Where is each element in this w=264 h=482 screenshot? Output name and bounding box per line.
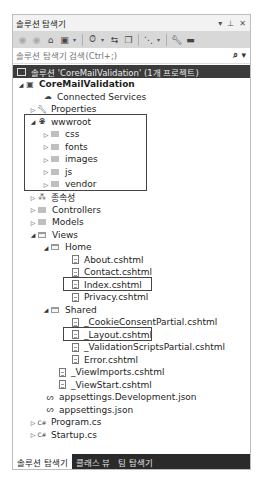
folder-icon (38, 219, 46, 225)
tree-item-program[interactable]: ▷ C# Program.cs (29, 416, 101, 429)
toolbar-separator (166, 34, 167, 46)
dependencies-icon: ⁂ (37, 193, 47, 202)
collapsed-arrow-icon[interactable]: ▷ (29, 219, 37, 226)
razor-file-icon (59, 380, 66, 389)
tree-item-views[interactable]: ◢ Views (29, 229, 78, 242)
razor-file-icon (72, 318, 79, 327)
solution-label: 솔루션 'CoreMailValidation' (1개 프로젝트) (31, 66, 199, 78)
wrench-icon: 🔧︎ (37, 105, 47, 114)
collapse-all-icon[interactable]: ❐ (123, 34, 134, 45)
collapsed-arrow-icon[interactable]: ▷ (29, 206, 37, 213)
tab-class-view[interactable]: 클래스 뷰 (72, 454, 115, 469)
folder-icon (51, 131, 59, 137)
home-icon[interactable]: ⌂ (45, 34, 56, 45)
razor-file-icon (72, 355, 79, 364)
collapsed-arrow-icon[interactable]: ▷ (29, 194, 37, 201)
tree-item-dependencies[interactable]: ▷ ⁂ 종속성 (29, 191, 75, 204)
collapsed-arrow-icon[interactable]: ▷ (29, 431, 37, 438)
expanded-arrow-icon[interactable]: ◢ (29, 231, 37, 238)
switch-views-dropdown-icon[interactable]: ▾ (73, 36, 78, 43)
tree-item-controllers[interactable]: ▷ Controllers (29, 204, 101, 217)
panel-title: 솔루션 탐색기 (16, 17, 65, 29)
tree-item-about[interactable]: About.cshtml (71, 254, 144, 267)
window-position-dropdown-icon[interactable]: ▾ (218, 19, 222, 28)
tree-item-contact[interactable]: Contact.cshtml (71, 266, 152, 279)
tree-item-home[interactable]: ◢ Home (42, 241, 92, 254)
collapsed-arrow-icon[interactable]: ▷ (42, 131, 50, 138)
open-folder-icon (51, 307, 59, 313)
globe-icon: 🌐︎ (37, 117, 47, 126)
folder-icon (51, 181, 59, 187)
search-bar: ⌕ ▾ (13, 48, 250, 64)
solution-icon (17, 68, 26, 76)
properties-icon[interactable]: 🔧︎ (171, 34, 182, 45)
razor-file-icon (72, 268, 79, 277)
cloud-icon: ☁ (43, 92, 53, 101)
tree-item-models[interactable]: ▷ Models (29, 216, 84, 229)
tree-item-error[interactable]: Error.cshtml (71, 354, 138, 367)
panel-titlebar: 솔루션 탐색기 ▾ ⊥ ✕ (13, 15, 250, 31)
tree-item-privacy[interactable]: Privacy.cshtml (71, 291, 148, 304)
razor-file-icon (72, 330, 79, 339)
tree-item-validation-scripts-partial[interactable]: _ValidationScriptsPartial.cshtml (71, 341, 225, 354)
switch-views-icon[interactable]: ▣ (59, 34, 70, 45)
tree-item-properties[interactable]: ▷ 🔧︎ Properties (29, 103, 96, 116)
json-file-icon: ᔕ (45, 393, 55, 402)
open-folder-icon (38, 232, 46, 238)
pending-changes-filter-icon[interactable]: ⏱ (87, 34, 98, 45)
tree-item-vendor[interactable]: ▷ vendor (42, 178, 97, 191)
pin-icon[interactable]: ⊥ (227, 19, 234, 28)
toolbar: ◉ ◉ ⌂ ▣ ▾ ⏱ ▾ ⇆ ❐ ⋱ ▾ 🔧︎ ▬ (13, 31, 250, 48)
folder-icon (51, 156, 59, 162)
search-input[interactable] (16, 51, 206, 61)
tree-item-wwwroot[interactable]: ◢ 🌐︎ wwwroot (29, 116, 91, 129)
toolbar-separator (138, 34, 139, 46)
json-file-icon: ᔕ (45, 405, 55, 414)
tree-item-shared[interactable]: ◢ Shared (42, 304, 97, 317)
expanded-arrow-icon[interactable]: ◢ (29, 118, 37, 125)
tree-item-startup[interactable]: ▷ C# Startup.cs (29, 429, 97, 442)
expanded-arrow-icon[interactable]: ◢ (17, 81, 25, 88)
collapsed-arrow-icon[interactable]: ▷ (42, 156, 50, 163)
solution-node[interactable]: 솔루션 'CoreMailValidation' (1개 프로젝트) (13, 65, 250, 78)
tab-solution-explorer[interactable]: 솔루션 탐색기 (13, 454, 72, 469)
solution-explorer-panel: 솔루션 탐색기 ▾ ⊥ ✕ ◉ ◉ ⌂ ▣ ▾ ⏱ ▾ ⇆ ❐ ⋱ ▾ 🔧︎ ▬… (12, 14, 251, 470)
collapsed-arrow-icon[interactable]: ▷ (29, 106, 37, 113)
bottom-tabs: 솔루션 탐색기 클래스 뷰 팀 탐색기 (13, 454, 250, 469)
csharp-file-icon: C# (37, 430, 47, 439)
expanded-arrow-icon[interactable]: ◢ (42, 244, 50, 251)
filter-dropdown-icon[interactable]: ▾ (101, 36, 106, 43)
razor-file-icon (72, 280, 79, 289)
tree-item-layout[interactable]: _Layout.cshtml (71, 329, 152, 342)
razor-file-icon (72, 255, 79, 264)
show-all-files-icon[interactable]: ⋱ (143, 34, 154, 45)
collapsed-arrow-icon[interactable]: ▷ (42, 168, 50, 175)
tree-item-js[interactable]: ▷ js (42, 166, 72, 179)
tab-team-explorer[interactable]: 팀 탐색기 (114, 454, 157, 469)
tree-item-cookie-consent-partial[interactable]: _CookieConsentPartial.cshtml (71, 316, 217, 329)
folder-icon (51, 144, 59, 150)
back-icon[interactable]: ◉ (17, 34, 28, 45)
tree-item-appsettings-development[interactable]: ᔕ appsettings.Development.json (45, 391, 197, 404)
tree-item-fonts[interactable]: ▷ fonts (42, 141, 88, 154)
collapsed-arrow-icon[interactable]: ▷ (42, 181, 50, 188)
preview-icon[interactable]: ▬ (185, 34, 196, 45)
csharp-file-icon: C# (37, 418, 47, 427)
sync-icon[interactable]: ⇆ (109, 34, 120, 45)
collapsed-arrow-icon[interactable]: ▷ (42, 143, 50, 150)
close-icon[interactable]: ✕ (239, 19, 246, 28)
collapsed-arrow-icon[interactable]: ▷ (29, 419, 37, 426)
tree-item-project[interactable]: ◢ ▣ CoreMailValidation (17, 78, 135, 91)
tree-item-css[interactable]: ▷ css (42, 128, 79, 141)
forward-icon[interactable]: ◉ (31, 34, 42, 45)
tree-item-connected-services[interactable]: ☁ Connected Services (43, 91, 146, 104)
show-all-dropdown-icon[interactable]: ▾ (157, 36, 162, 43)
expanded-arrow-icon[interactable]: ◢ (42, 306, 50, 313)
tree-item-images[interactable]: ▷ images (42, 153, 98, 166)
tree-item-view-imports[interactable]: _ViewImports.cshtml (58, 366, 164, 379)
open-folder-icon (51, 244, 59, 250)
tree-item-view-start[interactable]: _ViewStart.cshtml (58, 379, 152, 392)
search-icon[interactable]: ⌕ ▾ (233, 50, 250, 61)
tree-item-appsettings[interactable]: ᔕ appsettings.json (45, 404, 133, 417)
tree-item-index[interactable]: Index.cshtml (71, 279, 142, 292)
